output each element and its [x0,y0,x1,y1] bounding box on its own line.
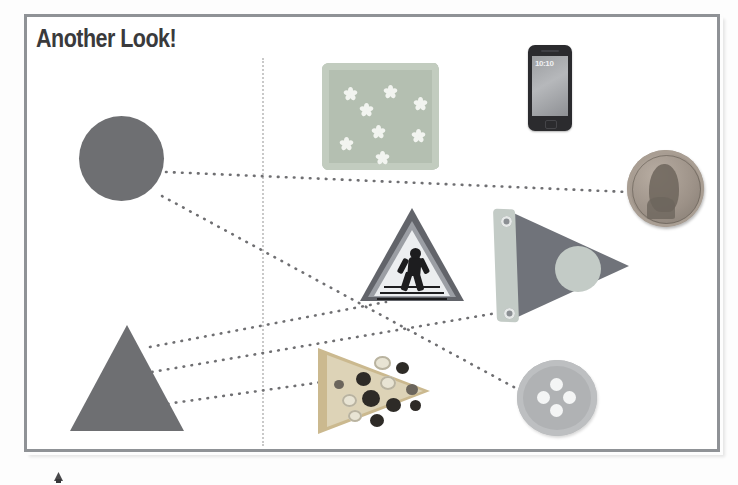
pizza-topping [370,414,384,427]
pizza-topping [362,390,380,407]
pizza-topping [342,394,357,407]
button-hole [550,378,563,391]
pizza-slice-image [318,348,434,434]
page-title: Another Look! [36,24,176,53]
pedestrian-head [410,248,421,259]
pizza-topping [356,372,371,386]
pizza-topping [374,356,391,370]
button-hole [563,391,576,404]
pizza-topping [396,362,409,374]
phone-speaker [541,50,559,52]
button-hole [550,404,563,417]
gray-circle-shape [79,116,164,201]
pizza-topping [386,398,401,412]
phone-screen: 10:10 [532,56,568,116]
grommet-icon [504,308,515,319]
crosswalk-stripe [377,298,447,300]
flower-icon [376,151,389,164]
pedestrian-body [407,257,422,276]
pizza-topping [380,376,396,390]
flower-icon [384,85,397,98]
flower-icon [412,129,425,142]
penny-image [627,150,704,227]
pennant-flag-image [495,203,635,328]
flower-icon [344,87,357,100]
phone-clock-label: 10:10 [535,60,553,68]
vertical-dotted-divider [262,58,264,446]
page-corner-mark-base [56,479,61,483]
pizza-topping [406,384,418,395]
crosswalk-stripe [380,292,444,294]
phone-home-button [545,120,557,129]
button-hole [537,391,550,404]
napkin-image [322,63,439,170]
gray-triangle-shape [70,325,184,431]
smartphone-image: 10:10 [528,45,572,131]
crossing-sign-image [360,208,464,304]
grommet-icon [501,216,512,227]
flower-icon [372,125,385,138]
penny-bust [647,197,675,219]
flower-icon [360,103,373,116]
worksheet-page: Another Look! [0,0,738,485]
sewing-button-image [517,360,597,436]
crosswalk-stripe [384,286,440,288]
flower-icon [340,137,353,150]
pizza-topping [410,400,421,411]
pizza-topping [348,410,362,422]
pizza-topping [334,380,344,389]
pennant-circle-emblem [555,246,601,292]
flower-icon [414,97,427,110]
